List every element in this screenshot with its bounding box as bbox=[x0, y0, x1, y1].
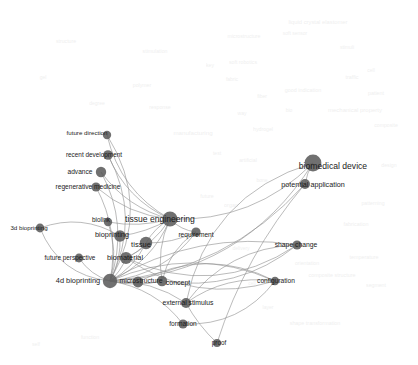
graph-edge bbox=[170, 163, 313, 219]
graph-node-tissue-engineering[interactable] bbox=[162, 211, 177, 226]
graph-node-4d-bioprinting[interactable] bbox=[103, 274, 117, 288]
graph-edge bbox=[110, 281, 183, 324]
graph-node-tissue[interactable] bbox=[140, 237, 152, 249]
edges-layer bbox=[40, 135, 313, 343]
graph-node-concept[interactable] bbox=[157, 276, 167, 286]
graph-node-requirement[interactable] bbox=[191, 227, 200, 236]
graph-edge bbox=[110, 163, 313, 281]
graph-edge bbox=[120, 219, 170, 236]
graph-edge bbox=[40, 228, 110, 281]
graph-canvas bbox=[0, 0, 418, 365]
graph-node-biolink[interactable] bbox=[104, 218, 112, 226]
graph-node-3d-bioprinting[interactable] bbox=[36, 224, 45, 233]
graph-edge bbox=[162, 232, 196, 281]
graph-node-formation[interactable] bbox=[178, 319, 187, 328]
graph-edge bbox=[96, 187, 113, 281]
graph-node-future-direction[interactable] bbox=[103, 131, 111, 139]
graph-node-potential-application[interactable] bbox=[300, 179, 310, 189]
graph-edge bbox=[186, 245, 297, 303]
graph-node-external-stimulus[interactable] bbox=[181, 298, 191, 308]
graph-node-regenerative-medicine[interactable] bbox=[91, 182, 100, 191]
graph-edge bbox=[186, 303, 217, 343]
graph-node-biomaterial[interactable] bbox=[120, 252, 132, 264]
graph-node-microstructure[interactable] bbox=[133, 277, 144, 288]
graph-edge bbox=[110, 281, 186, 303]
graph-node-proof[interactable] bbox=[213, 339, 221, 347]
graph-node-advance[interactable] bbox=[96, 167, 106, 177]
graph-node-bioprinting[interactable] bbox=[114, 230, 126, 242]
graph-node-shape-change[interactable] bbox=[292, 240, 301, 249]
graph-node-configuration[interactable] bbox=[271, 277, 279, 285]
graph-node-future-perspective[interactable] bbox=[75, 254, 84, 263]
graph-node-recent-development[interactable] bbox=[103, 150, 113, 160]
network-graph-figure: liquid crystal elastomersoft sensormicro… bbox=[0, 0, 418, 365]
graph-node-biomedical-device[interactable] bbox=[305, 155, 322, 172]
